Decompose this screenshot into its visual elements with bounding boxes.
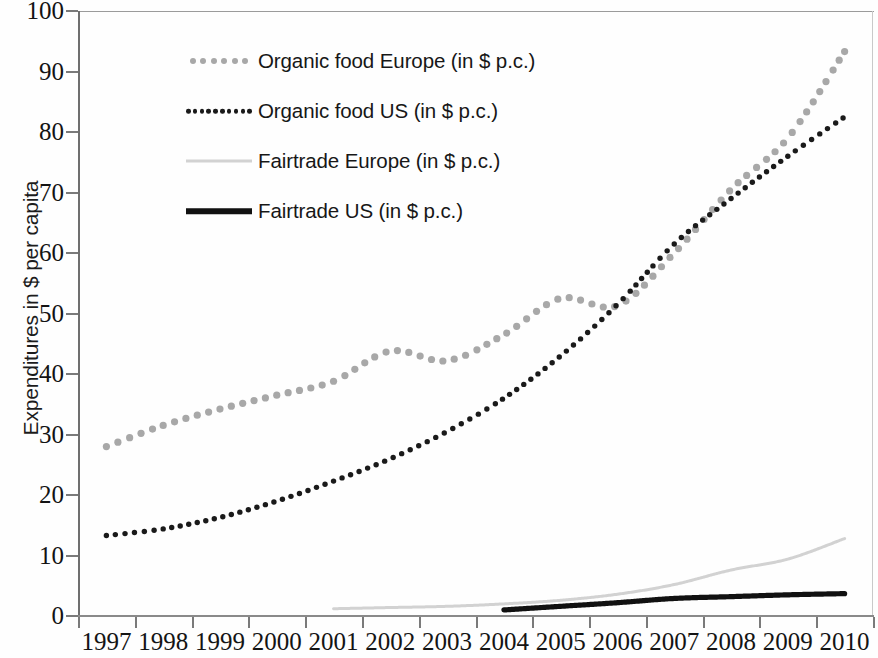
x-tick-mark <box>135 617 137 628</box>
y-tick-label: 30 <box>6 421 64 449</box>
x-tick-label: 1998 <box>135 628 192 656</box>
x-tick-label: 2004 <box>476 628 533 656</box>
y-tick-mark <box>66 313 78 315</box>
x-tick-label: 1997 <box>78 628 135 656</box>
y-axis-line <box>78 11 80 617</box>
chart-legend: Organic food Europe (in $ p.c.)Organic f… <box>186 36 606 236</box>
x-tick-mark <box>362 617 364 628</box>
x-tick-label: 2007 <box>646 628 703 656</box>
x-tick-mark <box>248 617 250 628</box>
x-tick-mark <box>419 617 421 628</box>
x-tick-label: 2005 <box>532 628 589 656</box>
y-tick-label: 20 <box>6 481 64 509</box>
y-axis-tick-labels: 1009080706050403020100 <box>0 0 64 658</box>
x-tick-mark <box>305 617 307 628</box>
y-tick-label: 10 <box>6 542 64 570</box>
y-tick-label: 80 <box>6 118 64 146</box>
x-tick-mark <box>192 617 194 628</box>
y-tick-label: 0 <box>6 602 64 630</box>
y-tick-label: 90 <box>6 58 64 86</box>
y-tick-label: 60 <box>6 239 64 267</box>
legend-item[interactable]: Organic food Europe (in $ p.c.) <box>186 36 606 86</box>
y-tick-mark <box>66 494 78 496</box>
y-tick-mark <box>66 373 78 375</box>
y-tick-mark <box>66 192 78 194</box>
legend-item[interactable]: Organic food US (in $ p.c.) <box>186 86 606 136</box>
x-tick-label: 2000 <box>248 628 305 656</box>
legend-marker-solid-black-thick-icon <box>186 202 252 220</box>
x-tick-label: 2008 <box>703 628 760 656</box>
x-tick-label: 2010 <box>816 628 873 656</box>
legend-label: Organic food US (in $ p.c.) <box>258 99 498 123</box>
legend-marker-dotted-gray-large-icon <box>186 52 252 70</box>
x-tick-mark <box>646 617 648 628</box>
x-tick-mark <box>532 617 534 628</box>
plot-top-border <box>78 11 874 12</box>
legend-label: Fairtrade US (in $ p.c.) <box>258 199 463 223</box>
x-tick-label: 2002 <box>362 628 419 656</box>
x-tick-label: 2009 <box>759 628 816 656</box>
legend-marker-dotted-black-small-icon <box>186 102 252 120</box>
x-tick-mark <box>476 617 478 628</box>
legend-label: Fairtrade Europe (in $ p.c.) <box>258 149 500 173</box>
x-tick-mark <box>589 617 591 628</box>
y-tick-mark <box>66 252 78 254</box>
y-tick-label: 100 <box>6 0 64 25</box>
x-tick-mark <box>873 617 875 628</box>
y-tick-label: 70 <box>6 179 64 207</box>
x-tick-mark <box>703 617 705 628</box>
y-tick-mark <box>66 615 78 617</box>
chart-container: Expenditures in $ per capita 10090807060… <box>0 0 878 658</box>
y-tick-mark <box>66 131 78 133</box>
x-tick-mark <box>816 617 818 628</box>
x-tick-label: 2006 <box>589 628 646 656</box>
y-tick-mark <box>66 10 78 12</box>
y-tick-mark <box>66 434 78 436</box>
y-tick-mark <box>66 555 78 557</box>
series-3 <box>334 539 845 609</box>
x-tick-label: 2003 <box>419 628 476 656</box>
y-tick-label: 50 <box>6 300 64 328</box>
series-4 <box>504 594 845 610</box>
legend-item[interactable]: Fairtrade US (in $ p.c.) <box>186 186 606 236</box>
y-tick-mark <box>66 71 78 73</box>
legend-marker-solid-lightgray-thin-icon <box>186 152 252 170</box>
legend-item[interactable]: Fairtrade Europe (in $ p.c.) <box>186 136 606 186</box>
x-tick-label: 2001 <box>305 628 362 656</box>
plot-right-border <box>872 11 873 617</box>
x-tick-mark <box>759 617 761 628</box>
x-tick-mark <box>78 617 80 628</box>
legend-label: Organic food Europe (in $ p.c.) <box>258 49 535 73</box>
x-tick-label: 1999 <box>192 628 249 656</box>
y-tick-label: 40 <box>6 360 64 388</box>
